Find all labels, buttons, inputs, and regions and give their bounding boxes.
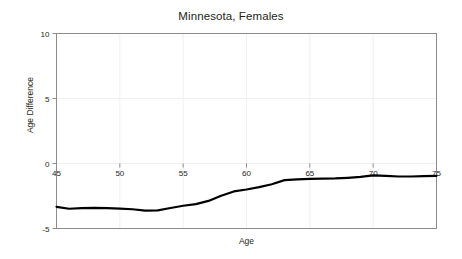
x-tick-label: 55: [179, 169, 188, 178]
y-tick-label: 5: [45, 95, 50, 104]
x-tick-label: 45: [52, 169, 61, 178]
x-tick-label: 65: [305, 169, 314, 178]
y-tick-label: -5: [42, 225, 50, 234]
plot-area: 45505560657075 -50510: [0, 0, 462, 259]
x-tick-label: 50: [115, 169, 124, 178]
y-tick-label: 10: [41, 30, 50, 39]
grid-lines: [57, 34, 437, 229]
x-tick-label: 60: [242, 169, 251, 178]
y-tick-label: 0: [45, 160, 50, 169]
y-axis-ticks: -50510: [41, 30, 57, 234]
chart-figure: Minnesota, Females Age Difference Age 45…: [0, 0, 462, 259]
